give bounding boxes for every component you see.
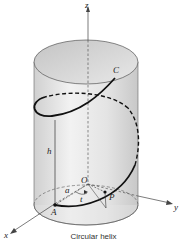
origin-label: O bbox=[81, 175, 88, 185]
z-axis-label: z bbox=[84, 0, 89, 10]
point-p-label: P bbox=[108, 192, 115, 202]
height-label: h bbox=[47, 146, 52, 156]
end-point-label: C bbox=[113, 65, 120, 75]
figure-caption: Circular helix bbox=[0, 232, 187, 241]
cylinder-top bbox=[34, 40, 138, 84]
radius-label: a bbox=[65, 185, 70, 195]
helix-diagram: z x y h C O a t P A bbox=[0, 0, 187, 250]
start-point-label: A bbox=[50, 207, 57, 217]
point-p-marker bbox=[103, 190, 106, 193]
cylinder bbox=[34, 40, 138, 225]
cylinder-base-front bbox=[34, 205, 138, 225]
y-axis-label: y bbox=[173, 202, 178, 212]
